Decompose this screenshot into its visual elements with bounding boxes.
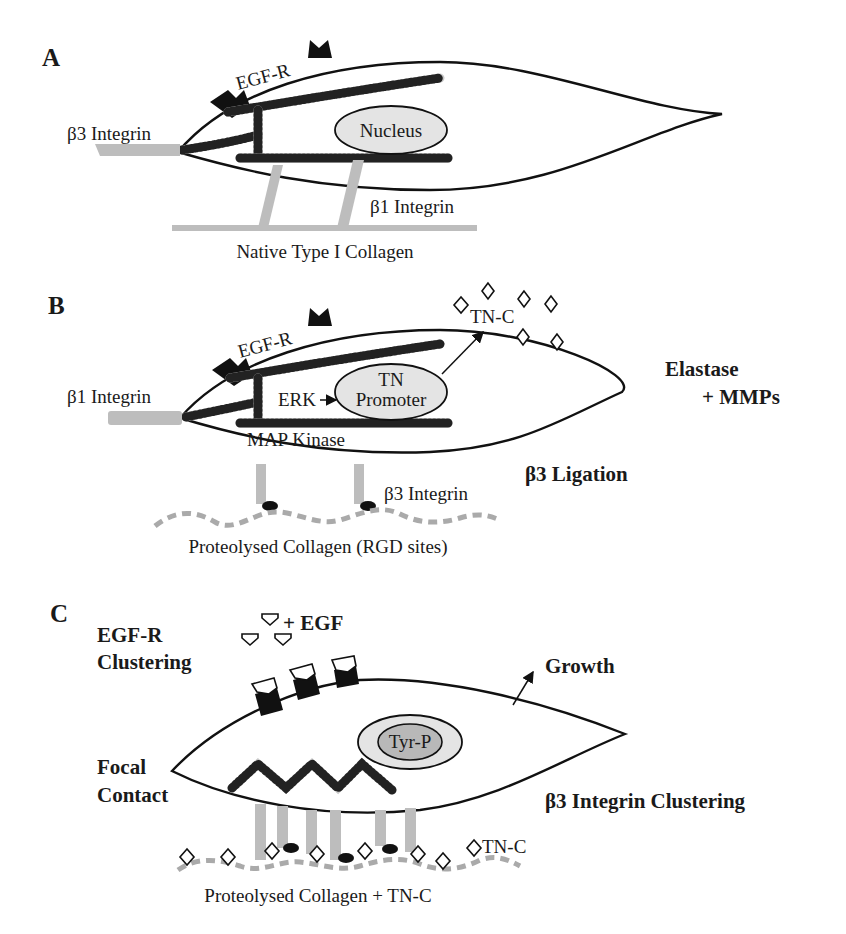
tnc-diamond-icon bbox=[518, 291, 530, 307]
promoter-label: Promoter bbox=[356, 389, 427, 410]
panel-label-b: B bbox=[48, 292, 65, 319]
panel-label-c: C bbox=[50, 600, 68, 627]
integrin-left-a bbox=[95, 144, 180, 156]
egfr-receptor-icon bbox=[308, 40, 332, 58]
nucleus-label-a: Nucleus bbox=[360, 120, 422, 141]
integrin-bottom-label-a: β1 Integrin bbox=[370, 196, 455, 217]
egf-ligand-icon bbox=[275, 634, 291, 645]
tnc-diamond-icon bbox=[467, 840, 481, 856]
integrin-stalk-b bbox=[256, 464, 266, 504]
egf-label: + EGF bbox=[283, 611, 343, 635]
tnc-diamond-icon bbox=[482, 283, 494, 299]
egf-ligand-icon bbox=[252, 678, 277, 694]
ligation-label: β3 Ligation bbox=[525, 462, 628, 486]
tyr-p-label: Tyr-P bbox=[389, 731, 432, 752]
tnc-diamond-icon bbox=[265, 843, 279, 859]
tnc-diamond-icon bbox=[358, 843, 372, 859]
egfr-receptor-icon bbox=[308, 308, 332, 326]
focal-label-1: Focal bbox=[97, 755, 146, 779]
egfr-clustering-label-1: EGF-R bbox=[97, 623, 163, 647]
integrin-left-label-b: β1 Integrin bbox=[67, 386, 152, 407]
integrin-left-b bbox=[108, 411, 182, 425]
panel-c: C + EGF EGF-R Clustering Growth Tyr-P Fo… bbox=[50, 600, 746, 906]
egf-ligand-icon bbox=[262, 614, 278, 625]
rgd-site-icon bbox=[338, 853, 354, 863]
map-kinase-label: MAP Kinase bbox=[247, 429, 345, 450]
integrin-stalk-b bbox=[354, 464, 364, 504]
tnc-label-c: TN-C bbox=[482, 836, 526, 857]
native-collagen-bar bbox=[172, 225, 477, 231]
proteolysed-collagen-b bbox=[155, 510, 500, 526]
integrin-clustering-label: β3 Integrin Clustering bbox=[545, 789, 746, 813]
integrin-bottom-label-b: β3 Integrin bbox=[384, 483, 469, 504]
enzymes-label-2: + MMPs bbox=[702, 385, 780, 409]
focal-label-2: Contact bbox=[97, 783, 168, 807]
egf-ligand-icon bbox=[290, 664, 315, 680]
panel-b: B EGF-R TN Promoter ERK MAP Kinase β1 In… bbox=[48, 283, 780, 558]
integrin-left-label-a: β3 Integrin bbox=[67, 123, 152, 144]
erk-label: ERK bbox=[278, 389, 316, 410]
rgd-site-icon bbox=[283, 843, 299, 853]
egfr-clustering-label-2: Clustering bbox=[97, 650, 192, 674]
tnc-diamond-icon bbox=[545, 296, 557, 312]
substrate-label-b: Proteolysed Collagen (RGD sites) bbox=[188, 536, 447, 558]
rgd-site-icon bbox=[382, 844, 398, 854]
egf-ligand-icon bbox=[242, 634, 258, 645]
substrate-label-c: Proteolysed Collagen + TN-C bbox=[204, 885, 431, 906]
panel-label-a: A bbox=[42, 44, 60, 71]
tn-label: TN bbox=[378, 369, 404, 390]
substrate-label-a: Native Type I Collagen bbox=[236, 241, 414, 262]
panel-a: A EGF-R Nucleus β3 Integrin β1 Integrin … bbox=[42, 40, 722, 262]
growth-label: Growth bbox=[545, 654, 615, 678]
tnc-label-b: TN-C bbox=[470, 306, 514, 327]
tnc-diamond-icon bbox=[454, 297, 468, 313]
signaling-diagram: A EGF-R Nucleus β3 Integrin β1 Integrin … bbox=[0, 0, 846, 934]
egf-ligand-icon bbox=[332, 656, 356, 672]
enzymes-label-1: Elastase bbox=[665, 357, 739, 381]
